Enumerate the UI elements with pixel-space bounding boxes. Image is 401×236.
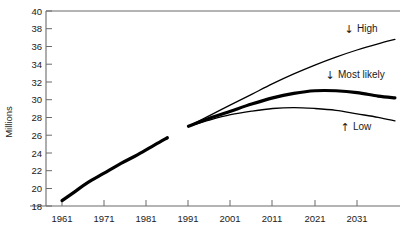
annotation-label-most-likely: Most likely [338, 69, 385, 80]
y-tick-label: 36 [31, 41, 42, 52]
x-tick-label: 1991 [177, 213, 198, 224]
down-arrow-icon: ↓ [325, 69, 334, 82]
annotation-most-likely: ↓ Most likely [325, 69, 384, 82]
y-tick-label: 28 [31, 112, 42, 123]
up-arrow-icon: ↑ [340, 121, 349, 134]
x-tick-label: 2001 [219, 213, 240, 224]
x-axis-tick-labels: 1961 1971 1981 1991 2001 2011 2021 2031 [51, 213, 367, 224]
y-tick-label: 24 [31, 148, 42, 159]
annotation-label-low: Low [353, 121, 372, 132]
y-axis-tick-labels: 40 38 36 34 32 30 28 26 24 22 20 18 [31, 6, 42, 212]
y-axis-title: Millions [3, 106, 14, 138]
chart-container: 40 38 36 34 32 30 28 26 24 22 20 18 Mill… [0, 0, 401, 236]
y-tick-label: 30 [31, 94, 42, 105]
y-tick-label: 40 [31, 6, 42, 17]
annotation-label-high: High [357, 23, 378, 34]
x-tick-label: 1961 [51, 213, 72, 224]
y-tick-label: 18 [31, 201, 42, 212]
x-tick-label: 1981 [135, 213, 156, 224]
x-axis-ticks [62, 200, 357, 206]
y-tick-label: 32 [31, 77, 42, 88]
x-tick-label: 2021 [304, 213, 325, 224]
x-tick-label: 2011 [262, 213, 282, 224]
x-tick-label: 1971 [93, 213, 114, 224]
annotation-high: ↓ High [344, 23, 377, 36]
y-tick-label: 26 [31, 130, 42, 141]
annotation-low: ↑ Low [340, 121, 372, 134]
y-tick-label: 20 [31, 183, 42, 194]
series-line-historical [62, 138, 167, 201]
population-projection-chart: 40 38 36 34 32 30 28 26 24 22 20 18 Mill… [0, 0, 401, 236]
y-tick-label: 38 [31, 23, 42, 34]
y-tick-label: 34 [31, 59, 42, 70]
down-arrow-icon: ↓ [344, 23, 353, 36]
x-tick-label: 2031 [346, 213, 367, 224]
y-axis-ticks [46, 11, 52, 206]
y-tick-label: 22 [31, 165, 42, 176]
